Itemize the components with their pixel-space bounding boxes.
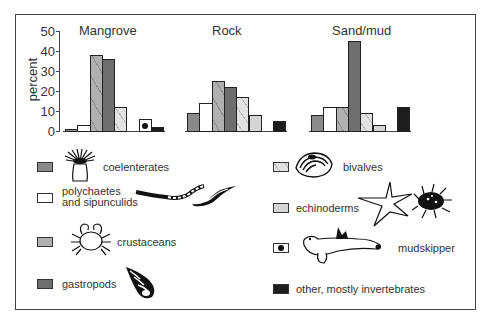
bar-sand-mud-echinoderms <box>373 125 386 132</box>
legend-label-bivalves: bivalves <box>343 162 383 173</box>
y-tick-10: 10 <box>33 104 55 119</box>
bar-mangrove-other <box>151 127 164 132</box>
sea-anemone-icon <box>62 148 98 184</box>
legend-label-polychaetes-line2: and sipunculids <box>62 197 138 208</box>
legend-swatch-coelenterates <box>37 162 53 172</box>
legend-label-other: other, mostly invertebrates <box>296 284 425 295</box>
bar-mangrove-bivalves <box>114 107 127 132</box>
crab-icon <box>68 222 114 258</box>
bar-rock-coelenterates <box>187 113 200 132</box>
legend-label-echinoderms: echinoderms <box>296 203 359 214</box>
y-tick-50: 50 <box>33 24 55 39</box>
dot-marker <box>278 245 284 251</box>
y-tick-mark <box>56 111 60 112</box>
legend-label-mudskipper: mudskipper <box>398 243 455 254</box>
group-title-sand-mud: Sand/mud <box>332 23 391 38</box>
bar-sand-mud-polychaetes <box>323 107 336 132</box>
dot-marker <box>142 123 148 129</box>
bar-sand-mud-bivalves <box>360 113 373 132</box>
y-tick-0: 0 <box>33 124 55 139</box>
bar-rock-crustaceans <box>212 81 225 132</box>
y-tick-mark <box>56 91 60 92</box>
y-tick-mark <box>56 71 60 72</box>
legend-swatch-gastropods <box>37 279 53 289</box>
bar-mangrove-mudskipper <box>139 119 152 132</box>
bar-sand-mud-gastropods <box>348 41 361 132</box>
y-tick-40: 40 <box>33 44 55 59</box>
y-tick-mark <box>56 51 60 52</box>
gastropod-shell-icon <box>124 265 158 301</box>
bar-rock-echinoderms <box>249 115 262 132</box>
worm-icon <box>134 182 238 208</box>
bar-rock-bivalves <box>236 97 249 132</box>
y-axis-line <box>59 31 60 132</box>
legend-swatch-polychaetes <box>37 193 53 203</box>
y-tick-30: 30 <box>33 64 55 79</box>
group-title-rock: Rock <box>212 23 242 38</box>
legend-label-gastropods: gastropods <box>62 279 116 290</box>
bar-rock-gastropods <box>224 87 237 132</box>
legend-swatch-other <box>273 284 289 294</box>
bar-sand-mud-crustaceans <box>336 107 349 132</box>
mudskipper-icon <box>298 225 388 267</box>
bar-rock-other <box>273 121 286 132</box>
y-tick-20: 20 <box>33 84 55 99</box>
bar-mangrove-coelenterates <box>65 129 78 132</box>
bar-rock-polychaetes <box>199 103 212 132</box>
bar-mangrove-gastropods <box>102 59 115 132</box>
bar-sand-mud-coelenterates <box>311 115 324 132</box>
bivalve-shell-icon <box>294 150 334 180</box>
legend-swatch-crustaceans <box>37 237 53 247</box>
bar-mangrove-polychaetes <box>77 125 90 132</box>
starfish-and-sea-urchin-icon <box>356 180 454 228</box>
group-title-mangrove: Mangrove <box>79 23 137 38</box>
legend-label-coelenterates: coelenterates <box>103 162 169 173</box>
legend-swatch-mudskipper <box>273 243 289 253</box>
legend-swatch-echinoderms <box>273 203 289 213</box>
legend-label-crustaceans: crustaceans <box>117 237 176 248</box>
y-tick-mark <box>56 31 60 32</box>
bar-mangrove-crustaceans <box>90 55 103 132</box>
legend-swatch-bivalves <box>273 162 289 172</box>
bar-sand-mud-other <box>397 107 410 132</box>
y-tick-mark <box>56 131 60 132</box>
